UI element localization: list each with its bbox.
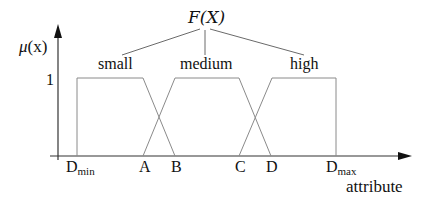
x-tick-c: C: [235, 159, 246, 175]
membership-high: [239, 78, 336, 156]
x-axis-arrow-icon: [398, 152, 412, 160]
x-tick-dmax-main: D: [326, 158, 338, 175]
x-tick-d: D: [266, 159, 278, 175]
set-label-high: high: [290, 56, 318, 72]
set-label-medium: medium: [180, 56, 232, 72]
tree-line-small: [122, 29, 200, 55]
x-tick-b: B: [171, 159, 182, 175]
membership-small: [77, 78, 175, 156]
x-axis-label: attribute: [346, 178, 403, 195]
y-axis-label: μ(x): [19, 38, 47, 55]
tree-line-high: [210, 29, 304, 55]
y-axis-label-arg: (x): [28, 37, 48, 56]
membership-function-diagram: [0, 0, 425, 204]
x-tick-dmax-sub: max: [338, 165, 357, 177]
set-label-small: small: [98, 56, 133, 72]
y-axis-arrow-icon: [54, 24, 62, 38]
membership-medium: [143, 78, 271, 156]
y-axis-label-symbol: μ: [19, 37, 28, 56]
diagram-title: F(X): [188, 9, 225, 26]
y-tick-1: 1: [46, 72, 54, 88]
x-tick-dmin-sub: min: [78, 165, 95, 177]
x-tick-a: A: [139, 159, 151, 175]
x-tick-dmin: Dmin: [66, 159, 95, 175]
x-tick-dmin-main: D: [66, 158, 78, 175]
x-tick-dmax: Dmax: [326, 159, 357, 175]
